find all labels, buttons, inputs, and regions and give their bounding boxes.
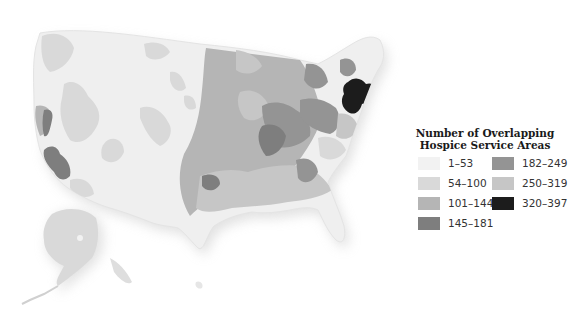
legend-item: 101–144 [418,196,493,210]
legend-item: 145–181 [418,216,493,230]
legend-item: 320–397 [492,196,567,210]
legend-swatch [418,177,440,190]
legend-swatch [418,217,440,230]
legend-label: 1–53 [448,157,473,169]
legend-item: 182–249 [492,156,567,170]
legend-title-line1: Number of Overlapping [410,127,560,139]
legend-swatch [492,197,514,210]
legend-label: 54–100 [448,177,487,189]
legend-grid: 1–53 54–100 101–144 145–181 182–249 250–… [410,156,580,246]
legend-label: 182–249 [522,157,567,169]
legend-title-line2: Hospice Service Areas [410,139,560,151]
legend-swatch [418,157,440,170]
aleutian-islands [22,286,58,304]
legend-item: 1–53 [418,156,473,170]
legend-swatch [492,177,514,190]
legend-swatch [418,197,440,210]
legend-item: 54–100 [418,176,487,190]
alaska [43,209,98,286]
alaska-panhandle [110,258,132,283]
map-legend: Number of Overlapping Hospice Service Ar… [410,127,580,246]
legend-swatch [492,157,514,170]
legend-label: 101–144 [448,197,493,209]
alaska-marker [77,235,83,241]
legend-label: 250–319 [522,177,567,189]
legend-label: 320–397 [522,197,567,209]
legend-title: Number of Overlapping Hospice Service Ar… [410,127,560,151]
hawaii [195,281,202,288]
legend-item: 250–319 [492,176,567,190]
legend-label: 145–181 [448,217,493,229]
